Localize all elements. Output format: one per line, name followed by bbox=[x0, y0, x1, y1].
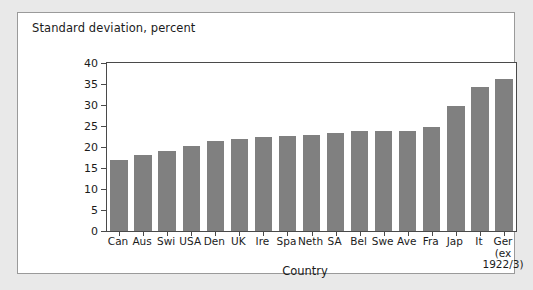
y-axis-tick-label: 5 bbox=[91, 204, 98, 217]
x-axis-tick-label: Jap bbox=[447, 236, 463, 248]
x-axis-tick-label: Bel bbox=[350, 236, 367, 248]
bar bbox=[134, 155, 151, 231]
chart-panel: Standard deviation, percent 051015202530… bbox=[17, 12, 515, 274]
y-axis-tick-label: 15 bbox=[84, 162, 98, 175]
bar bbox=[303, 135, 320, 231]
bar bbox=[110, 160, 127, 231]
x-axis-tick-label: Neth bbox=[298, 236, 323, 248]
plot-area: 0510152025303540 bbox=[106, 62, 517, 232]
x-axis-tick-label: Swe bbox=[372, 236, 394, 248]
x-axis-tick-label: Ger(ex1922/3) bbox=[482, 236, 523, 271]
bar bbox=[495, 79, 512, 231]
bar-series bbox=[107, 63, 516, 231]
y-axis-tick-label: 30 bbox=[84, 99, 98, 112]
x-axis-tick-label: It bbox=[475, 236, 482, 248]
bar bbox=[183, 146, 200, 231]
x-axis-tick-label: Swi bbox=[157, 236, 175, 248]
chart-title: Standard deviation, percent bbox=[32, 21, 195, 35]
bar bbox=[375, 131, 392, 231]
bar bbox=[399, 131, 416, 231]
figure-root: Standard deviation, percent 051015202530… bbox=[0, 0, 533, 290]
bar bbox=[447, 106, 464, 231]
x-axis-tick-label: Can bbox=[108, 236, 128, 248]
bar bbox=[327, 133, 344, 231]
x-axis-tick-label: Ire bbox=[256, 236, 270, 248]
y-axis-tick-label: 25 bbox=[84, 120, 98, 133]
bar bbox=[471, 87, 488, 231]
y-axis-tick-label: 10 bbox=[84, 183, 98, 196]
y-axis-tick-label: 35 bbox=[84, 78, 98, 91]
x-axis-title: Country bbox=[282, 264, 328, 278]
x-axis-tick-label: Ave bbox=[397, 236, 416, 248]
bar bbox=[207, 141, 224, 231]
x-axis-tick-label: Aus bbox=[132, 236, 151, 248]
bar bbox=[231, 139, 248, 231]
x-axis-tick-label: UK bbox=[231, 236, 246, 248]
y-axis-tick-label: 20 bbox=[84, 141, 98, 154]
y-axis-tick-label: 40 bbox=[84, 57, 98, 70]
x-axis-tick-label: Den bbox=[204, 236, 225, 248]
x-axis-tick-label: SA bbox=[328, 236, 342, 248]
x-axis-tick-label: Fra bbox=[423, 236, 439, 248]
bar bbox=[351, 131, 368, 231]
bar bbox=[279, 136, 296, 231]
y-axis-tick-label: 0 bbox=[91, 225, 98, 238]
bar bbox=[158, 151, 175, 231]
bar bbox=[423, 127, 440, 231]
x-axis-tick-label: Spa bbox=[277, 236, 297, 248]
bar bbox=[255, 137, 272, 231]
x-axis-tick-label: USA bbox=[179, 236, 201, 248]
